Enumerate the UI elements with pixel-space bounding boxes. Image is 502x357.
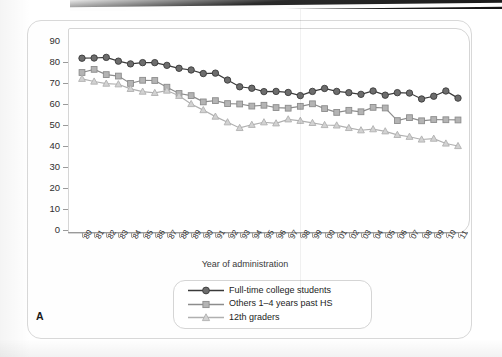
data-point [237, 101, 243, 107]
data-point [225, 101, 231, 107]
square-icon [186, 297, 226, 310]
data-point [334, 110, 340, 116]
x-axis-title: Year of administration [150, 259, 340, 269]
panel-label: A [36, 310, 44, 322]
chart-legend: Full-time college studentsOthers 1–4 yea… [173, 280, 372, 329]
legend-item-2[interactable]: Others 1–4 years past HS [174, 297, 371, 311]
y-tick-label: 10 [34, 203, 60, 214]
data-point [285, 105, 291, 111]
data-point [139, 59, 145, 65]
data-point [236, 84, 242, 90]
data-point [358, 91, 364, 97]
data-point [140, 77, 146, 83]
data-point [79, 55, 85, 61]
data-point [346, 89, 352, 95]
data-point [285, 89, 291, 95]
data-point [200, 99, 206, 105]
data-point [152, 59, 158, 65]
chart-series-svg [68, 28, 468, 232]
data-point [370, 104, 376, 110]
data-point [370, 126, 377, 132]
y-tick-label: 20 [34, 182, 60, 193]
scan-shadow-bottom [0, 339, 502, 357]
legend-item-3[interactable]: 12th graders [174, 310, 371, 324]
y-tick-label: 60 [34, 98, 60, 109]
data-point [79, 75, 86, 81]
data-point [188, 93, 194, 99]
data-point [200, 106, 207, 112]
data-point [382, 92, 388, 98]
y-tick-mark [63, 230, 68, 231]
data-point [213, 98, 219, 104]
data-point [212, 70, 218, 76]
data-point [164, 62, 170, 68]
data-point [455, 117, 461, 123]
circle-filled-icon [186, 283, 226, 296]
y-tick-mark [63, 188, 68, 189]
y-tick-label: 0 [34, 224, 60, 235]
data-point [188, 100, 195, 106]
legend-label: 12th graders [229, 312, 280, 322]
y-tick-label: 70 [34, 77, 60, 88]
y-tick-mark [63, 125, 68, 126]
data-point [261, 119, 268, 125]
data-point [261, 102, 267, 108]
data-point [103, 54, 109, 60]
data-point [91, 66, 97, 72]
data-point [443, 88, 449, 94]
data-point [419, 118, 425, 124]
data-point [127, 61, 133, 67]
data-point [152, 78, 158, 84]
data-point [115, 58, 121, 64]
data-point [382, 105, 388, 111]
data-point [394, 118, 400, 124]
y-tick-mark [63, 83, 68, 84]
legend-item-1[interactable]: Full-time college students [174, 283, 371, 297]
data-point [358, 109, 364, 115]
y-tick-label: 30 [34, 161, 60, 172]
series-line [82, 69, 458, 120]
data-point [285, 116, 292, 122]
data-point [273, 105, 279, 111]
y-tick-mark [63, 209, 68, 210]
data-point [346, 107, 352, 113]
data-point [188, 67, 194, 73]
data-point [310, 101, 316, 107]
triangle-icon [186, 310, 226, 323]
data-point [431, 117, 437, 123]
data-point [200, 70, 206, 76]
y-tick-mark [63, 146, 68, 147]
legend-label: Full-time college students [229, 285, 331, 295]
series-2 [79, 66, 461, 123]
y-tick-label: 80 [34, 56, 60, 67]
scan-fold-line [300, 4, 301, 304]
plot-area [68, 28, 468, 232]
data-point [430, 135, 437, 141]
data-point [103, 72, 109, 78]
data-point [249, 103, 255, 109]
data-point [321, 85, 327, 91]
y-tick-mark [63, 167, 68, 168]
data-point [249, 85, 255, 91]
data-point [261, 88, 267, 94]
series-1 [79, 54, 461, 102]
data-point [273, 88, 279, 94]
data-point [115, 73, 121, 79]
scanned-page-edge [70, 0, 502, 9]
data-point [406, 90, 412, 96]
data-point [443, 117, 449, 123]
data-point [370, 88, 376, 94]
scan-shadow-left [0, 0, 30, 357]
data-point [322, 106, 328, 112]
y-tick-mark [63, 104, 68, 105]
y-tick-label: 40 [34, 140, 60, 151]
legend-label: Others 1–4 years past HS [229, 298, 333, 308]
data-point [455, 95, 461, 101]
data-point [394, 89, 400, 95]
data-point [176, 65, 182, 71]
y-tick-mark [63, 62, 68, 63]
data-point [334, 88, 340, 94]
series-3 [79, 75, 462, 148]
data-point [418, 96, 424, 102]
data-point [431, 93, 437, 99]
